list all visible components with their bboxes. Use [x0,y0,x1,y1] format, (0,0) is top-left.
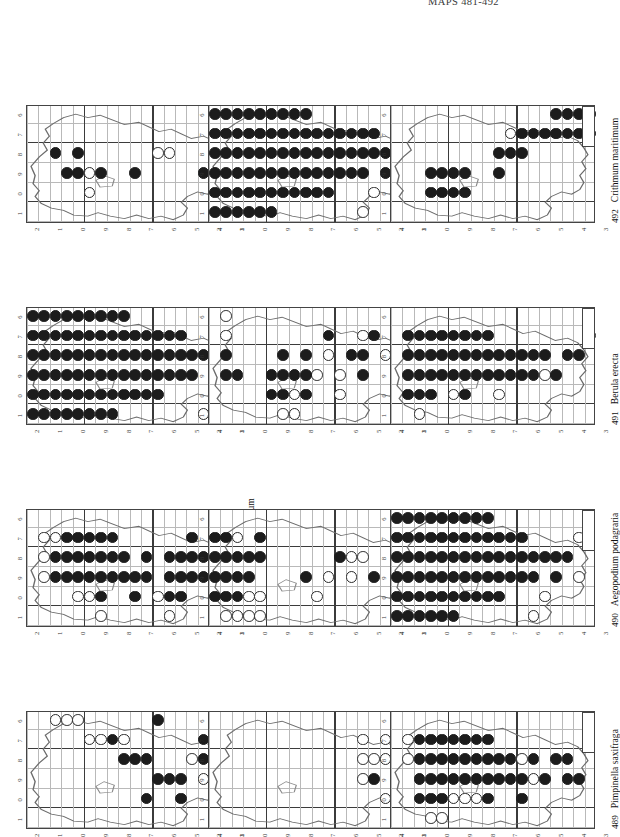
record-dot [471,591,483,603]
record-dot [84,408,96,420]
x-tick-label: 1 [199,818,206,821]
record-dot [152,389,164,401]
x-tick-label: 7 [199,739,206,742]
record-dot [425,551,437,563]
record-dot [220,369,232,381]
record-dot [118,310,130,322]
inset-box [582,308,595,349]
map-frame [390,509,595,627]
inset-box [582,106,595,147]
y-tick-label: 1 [239,228,246,231]
record-dot [300,369,312,381]
y-tick-label: 8 [490,228,497,231]
x-tick-label: 1 [381,414,388,417]
y-tick-label: 1 [57,430,64,433]
record-dot [550,551,562,563]
x-tick-label: 0 [17,798,24,801]
record-dot [152,714,164,726]
record-dot [175,330,187,342]
record-dot [471,753,483,765]
x-tick-label: 7 [381,335,388,338]
y-tick-label: 8 [490,430,497,433]
record-dot [323,147,335,159]
record-dot [266,147,278,159]
record-dot [482,793,494,805]
map-panel-489: 1098762109876543489Pimpinella saxifraga [378,614,613,778]
record-dot [505,532,517,544]
record-dot [448,571,460,583]
record-dot [277,187,289,199]
record-dot [573,773,585,785]
y-tick-label: 2 [34,632,41,635]
record-dot [448,753,460,765]
record-dot [72,167,84,179]
record-dot [459,512,471,524]
record-dot [414,532,426,544]
x-tick-label: 7 [17,335,24,338]
y-tick-label: 6 [171,632,178,635]
map-caption: 490Aegopodium podagraria [609,509,620,627]
map-panel-490: 1098762109876543490Aegopodium podagraria [378,412,613,576]
record-dot [232,167,244,179]
record-dot [425,571,437,583]
distribution-dots-filled [391,106,594,222]
record-dot [50,389,62,401]
y-tick-label: 0 [80,430,87,433]
record-dot [38,349,50,361]
record-dot [482,753,494,765]
record-dot [107,571,119,583]
record-dot [95,389,107,401]
record-dot [516,793,528,805]
record-dot [107,408,119,420]
record-dot [459,187,471,199]
record-dot [141,753,153,765]
y-tick-label: 7 [148,228,155,231]
x-tick-label: 8 [381,153,388,156]
record-dot [61,349,73,361]
record-dot [27,408,39,420]
record-dot [425,734,437,746]
record-dot [402,591,414,603]
record-dot [220,591,232,603]
record-dot [300,128,312,140]
record-dot [232,551,244,563]
record-dot [61,310,73,322]
x-tick-label: 0 [381,192,388,195]
y-tick-label: 7 [148,632,155,635]
x-tick-label: 8 [199,355,206,358]
record-dot [300,389,312,401]
record-dot [243,108,255,120]
x-tick-label: 8 [17,153,24,156]
record-dot [493,349,505,361]
record-dot [505,773,517,785]
record-dot [95,532,107,544]
record-dot [72,369,84,381]
y-tick-label: 6 [171,430,178,433]
record-dot [95,310,107,322]
record-dot [425,512,437,524]
y-tick-label: 2 [398,430,405,433]
record-dot [346,349,358,361]
x-tick-label: 9 [17,375,24,378]
y-tick-label: 8 [308,228,315,231]
y-tick-label: 8 [308,430,315,433]
record-dot [562,773,574,785]
record-dot [220,532,232,544]
record-dot [562,753,574,765]
record-dot [436,753,448,765]
record-dot [289,369,301,381]
record-dot [402,551,414,563]
record-dot [164,773,176,785]
y-tick-label: 5 [558,430,565,433]
record-dot [50,349,62,361]
x-tick-label: 0 [17,192,24,195]
y-tick-label: 2 [34,228,41,231]
record-dot [493,147,505,159]
record-dot [300,571,312,583]
record-dot [141,793,153,805]
record-dot [254,128,266,140]
record-dot [220,147,232,159]
y-tick-label: 1 [57,228,64,231]
record-dot [129,389,141,401]
record-dot [61,330,73,342]
